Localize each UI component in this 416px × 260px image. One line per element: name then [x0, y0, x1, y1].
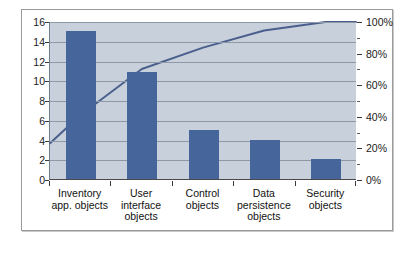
- y-tick-right: [357, 148, 362, 149]
- gridline: [50, 62, 356, 63]
- plot-area: [49, 22, 356, 180]
- gridline: [50, 81, 356, 82]
- bar: [127, 72, 157, 179]
- cumulative-line: [50, 22, 356, 143]
- y-tick-right: [357, 22, 362, 23]
- y-tick-right-minor: [357, 101, 360, 102]
- bar: [189, 130, 219, 179]
- bar: [311, 159, 341, 179]
- x-category-label-line: Security: [289, 188, 362, 200]
- y-tick-label-right: 60%: [366, 80, 387, 91]
- bar: [250, 140, 280, 180]
- y-tick-label-left: 0: [19, 175, 45, 186]
- x-tick: [355, 181, 356, 186]
- x-category-label: Securityobjects: [289, 188, 362, 211]
- y-tick-label-left: 12: [19, 56, 45, 67]
- y-tick-right-minor: [357, 38, 360, 39]
- x-category-label-line: objects: [289, 200, 362, 212]
- y-tick-label-right: 80%: [366, 48, 387, 59]
- x-tick: [172, 181, 173, 186]
- y-tick-label-right: 20%: [366, 143, 387, 154]
- y-tick-label-left: 16: [19, 17, 45, 28]
- y-tick-right: [357, 85, 362, 86]
- y-axis-right: 0%20%40%60%80%100%: [357, 22, 409, 180]
- x-tick: [49, 181, 50, 186]
- y-tick-label-left: 2: [19, 155, 45, 166]
- y-tick-label-left: 8: [19, 96, 45, 107]
- y-tick-right-minor: [357, 164, 360, 165]
- y-tick-label-left: 6: [19, 116, 45, 127]
- x-axis: Inventoryapp. objectsUserinterfaceobject…: [49, 181, 356, 229]
- y-tick-right-minor: [357, 133, 360, 134]
- y-tick-right: [357, 180, 362, 181]
- x-category-label-line: objects: [104, 211, 177, 223]
- gridline: [50, 22, 356, 23]
- pareto-chart: 0246810121416 0%20%40%60%80%100% Invento…: [0, 0, 416, 260]
- gridline: [50, 121, 356, 122]
- y-tick-label-right: 40%: [366, 112, 387, 123]
- y-tick-right-minor: [357, 69, 360, 70]
- y-tick-label-right: 100%: [366, 17, 393, 28]
- y-tick-right: [357, 54, 362, 55]
- y-tick-label-left: 10: [19, 76, 45, 87]
- y-tick-right: [357, 117, 362, 118]
- x-category-label-line: objects: [227, 211, 300, 223]
- x-tick: [295, 181, 296, 186]
- x-tick: [110, 181, 111, 186]
- y-tick-label-left: 4: [19, 135, 45, 146]
- y-axis-left: 0246810121416: [17, 22, 45, 180]
- gridline: [50, 101, 356, 102]
- bar: [66, 31, 96, 179]
- x-tick: [233, 181, 234, 186]
- gridline: [50, 42, 356, 43]
- y-tick-label-right: 0%: [366, 175, 381, 186]
- y-tick-label-left: 14: [19, 37, 45, 48]
